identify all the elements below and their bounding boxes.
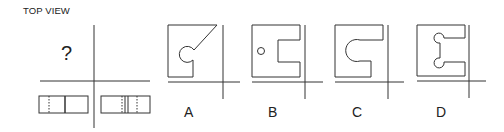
option-c-label[interactable]: C	[352, 104, 362, 120]
option-a-shape[interactable]	[168, 25, 240, 99]
option-d-label[interactable]: D	[436, 104, 446, 120]
option-d-shape[interactable]	[417, 25, 486, 98]
option-b-label[interactable]: B	[268, 104, 277, 120]
option-a-label[interactable]: A	[184, 104, 193, 120]
diagram-canvas	[0, 0, 504, 132]
option-b-shape[interactable]	[252, 25, 323, 99]
front-view	[39, 96, 88, 113]
side-view	[101, 96, 150, 113]
option-c-shape[interactable]	[335, 25, 404, 99]
